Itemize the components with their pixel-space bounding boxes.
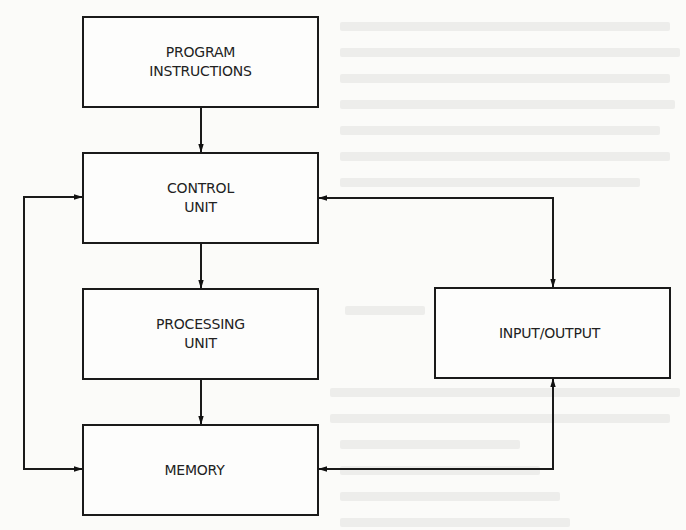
program-instructions-label-line2: INSTRUCTIONS [149,62,251,81]
memory-box: MEMORY [82,424,319,516]
input-output-label: INPUT/OUTPUT [499,324,600,343]
control-unit-box: CONTROL UNIT [82,152,319,244]
control-unit-label-line2: UNIT [184,198,217,217]
input-output-box: INPUT/OUTPUT [434,287,671,379]
processing-unit-box: PROCESSING UNIT [82,288,319,380]
arrow-control-memory-bidirectional [24,197,83,469]
control-unit-label-line1: CONTROL [167,179,234,198]
memory-label: MEMORY [164,461,224,480]
arrow-control-io-bidirectional [318,198,553,288]
processing-unit-label-line2: UNIT [184,334,217,353]
processing-unit-label-line1: PROCESSING [156,315,245,334]
program-instructions-label-line1: PROGRAM [166,43,235,62]
program-instructions-box: PROGRAM INSTRUCTIONS [82,16,319,108]
arrow-memory-io-bidirectional [318,378,553,469]
